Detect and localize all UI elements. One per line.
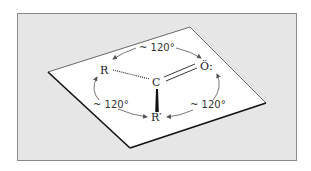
- r-group-label: R: [100, 64, 109, 77]
- oxygen-atom-label: Ö:: [200, 59, 213, 73]
- left-angle-label: ~ 120°: [93, 99, 129, 110]
- r-prime-group-label: R′: [151, 111, 162, 124]
- top-angle-label: ~ 120°: [139, 42, 175, 53]
- carbonyl-diagram: C Ö: R R′ ~ 120° ~ 120° ~ 120°: [0, 0, 311, 171]
- right-angle-label: ~ 120°: [190, 99, 226, 110]
- carbon-atom-label: C: [152, 76, 160, 89]
